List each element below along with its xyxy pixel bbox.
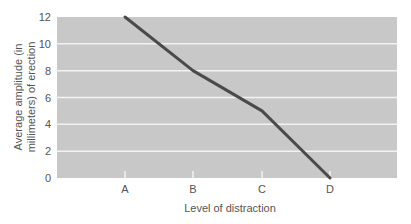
y-tick-label: 0 <box>45 172 51 184</box>
y-tick-label: 8 <box>45 65 51 77</box>
y-tick-label: 2 <box>45 145 51 157</box>
y-axis-title-line2: millimeters) of erection <box>25 42 37 153</box>
x-tick-label: A <box>121 183 129 195</box>
y-axis-title-line1: Average amplitude (in <box>12 44 24 151</box>
y-tick-label: 4 <box>45 118 51 130</box>
y-tick-label: 12 <box>39 11 51 23</box>
y-tick-label: 10 <box>39 38 51 50</box>
x-tick-label: D <box>326 183 334 195</box>
line-chart: 024681012 ABCD Level of distraction Aver… <box>0 0 411 224</box>
x-axis-title: Level of distraction <box>184 202 276 214</box>
x-tick-label: C <box>258 183 266 195</box>
y-tick-labels: 024681012 <box>39 11 51 184</box>
x-tick-labels: ABCD <box>121 183 334 195</box>
x-tick-label: B <box>189 183 196 195</box>
y-tick-label: 6 <box>45 92 51 104</box>
